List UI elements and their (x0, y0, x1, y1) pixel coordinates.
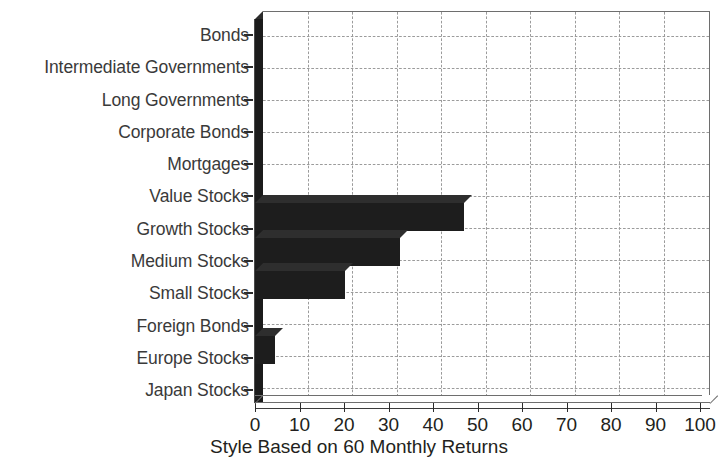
value-tick (389, 403, 390, 412)
value-tick (478, 403, 479, 412)
value-tick (255, 403, 256, 412)
category-label-small-stocks: Small Stocks (149, 285, 249, 303)
bar-chart: Bonds Intermediate Governments Long Gove… (0, 0, 718, 458)
value-tick-label-60: 60 (511, 414, 532, 436)
category-label-foreign-bonds: Foreign Bonds (136, 318, 249, 336)
category-label-value-stocks: Value Stocks (149, 188, 249, 206)
value-tick (300, 403, 301, 412)
value-tick-label-10: 10 (289, 414, 310, 436)
gridline-horizontal (263, 388, 709, 389)
value-tick-label-40: 40 (422, 414, 443, 436)
category-label-long-governments: Long Governments (102, 92, 249, 110)
value-tick-label-20: 20 (333, 414, 354, 436)
value-tick-label-30: 30 (378, 414, 399, 436)
category-label-europe-stocks: Europe Stocks (136, 350, 249, 368)
gridline-horizontal (263, 36, 709, 37)
gridline-vertical (619, 12, 620, 395)
plot-floor (255, 395, 710, 403)
gridline-horizontal (263, 356, 709, 357)
bar-top-growth-stocks (255, 195, 472, 203)
bar-growth-stocks (255, 203, 464, 231)
category-label-medium-stocks: Medium Stocks (131, 253, 249, 271)
value-tick (700, 403, 701, 412)
category-label-japan-stocks: Japan Stocks (145, 382, 249, 400)
category-label-intermediate-governments: Intermediate Governments (44, 59, 249, 77)
gridline-horizontal (263, 132, 709, 133)
value-tick (522, 403, 523, 412)
value-tick (433, 403, 434, 412)
plot-floor-edge (710, 395, 718, 403)
value-axis-title: Style Based on 60 Monthly Returns (0, 436, 718, 458)
bar-top-medium-stocks (255, 230, 408, 238)
value-tick-label-100: 100 (684, 414, 716, 436)
gridline-horizontal (263, 164, 709, 165)
gridline-vertical (575, 12, 576, 395)
value-tick-label-0: 0 (250, 414, 261, 436)
value-tick-label-70: 70 (556, 414, 577, 436)
gridline-vertical (486, 12, 487, 395)
category-label-mortgages: Mortgages (167, 156, 249, 174)
gridline-vertical (664, 12, 665, 395)
gridline-horizontal (263, 324, 709, 325)
category-label-growth-stocks: Growth Stocks (137, 221, 249, 239)
value-tick-label-50: 50 (467, 414, 488, 436)
bar-top-small-stocks (255, 263, 353, 271)
value-axis-line (255, 408, 710, 409)
category-label-bonds: Bonds (200, 27, 249, 45)
gridline-horizontal (263, 68, 709, 69)
bar-medium-stocks (255, 238, 400, 266)
value-tick (567, 403, 568, 412)
gridline-vertical (530, 12, 531, 395)
value-tick (611, 403, 612, 412)
plot-left-wall-top (255, 11, 263, 19)
value-tick (344, 403, 345, 412)
value-tick (656, 403, 657, 412)
category-label-corporate-bonds: Corporate Bonds (118, 124, 249, 142)
gridline-horizontal (263, 100, 709, 101)
bar-europe-stocks (255, 336, 275, 364)
value-tick-label-80: 80 (600, 414, 621, 436)
bar-small-stocks (255, 271, 345, 299)
value-tick-label-90: 90 (645, 414, 666, 436)
